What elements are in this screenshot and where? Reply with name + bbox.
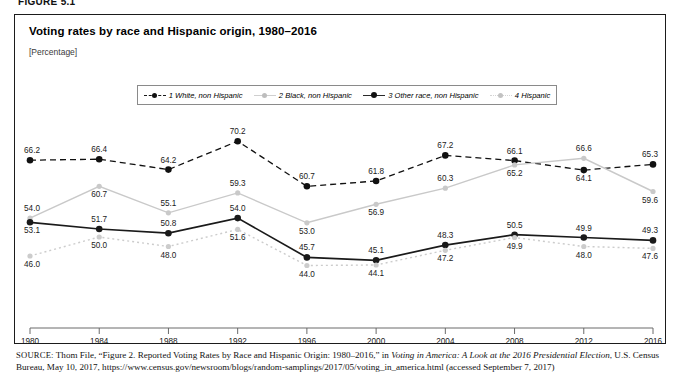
x-axis-tick-label: 2008 <box>505 337 524 343</box>
data-point[interactable] <box>27 219 34 226</box>
data-point-label: 59.3 <box>230 179 246 188</box>
chart-svg: 1980198419881992199620002004200820122016… <box>15 15 667 343</box>
data-point-label: 54.0 <box>24 204 40 213</box>
data-point-label: 60.7 <box>91 190 107 199</box>
data-point[interactable] <box>650 246 655 251</box>
data-point[interactable] <box>165 230 172 237</box>
data-point-label: 70.2 <box>230 127 246 136</box>
data-point-label: 50.0 <box>91 241 107 250</box>
data-point[interactable] <box>650 237 657 244</box>
data-point-label: 51.7 <box>91 215 107 224</box>
data-point[interactable] <box>97 184 102 189</box>
data-point-label: 53.0 <box>299 227 315 236</box>
data-point-label: 64.1 <box>576 174 592 183</box>
series-line <box>30 218 653 260</box>
data-point-label: 59.6 <box>642 196 658 205</box>
data-point[interactable] <box>443 186 448 191</box>
data-point[interactable] <box>512 162 517 167</box>
data-point-label: 65.2 <box>507 169 523 178</box>
x-axis-tick-label: 2016 <box>644 337 663 343</box>
data-point[interactable] <box>27 157 34 164</box>
x-axis-tick-label: 1984 <box>90 337 109 343</box>
data-point[interactable] <box>304 263 309 268</box>
data-point-label: 47.6 <box>642 252 658 261</box>
source-text-italic: Voting in America: A Look at the 2016 Pr… <box>391 350 610 360</box>
data-point-label: 46.0 <box>24 260 40 269</box>
line-chart-plot-area: 1980198419881992199620002004200820122016… <box>15 15 667 343</box>
data-point[interactable] <box>443 248 448 253</box>
series-line <box>30 229 653 265</box>
chart-series: 66.266.464.270.260.761.867.266.164.165.3 <box>24 127 658 189</box>
series-line <box>30 158 653 223</box>
data-point-label: 48.0 <box>160 251 176 260</box>
data-point-label: 49.9 <box>576 224 592 233</box>
data-point[interactable] <box>96 226 103 233</box>
figure-label: FIGURE 5.1 <box>18 0 75 7</box>
data-point-label: 50.8 <box>160 219 176 228</box>
source-text-1: Thom File, “Figure 2. Reported Voting Ra… <box>54 350 391 360</box>
data-point-label: 54.0 <box>230 204 246 213</box>
data-point[interactable] <box>27 253 32 258</box>
data-point-label: 60.7 <box>299 172 315 181</box>
data-point[interactable] <box>165 166 172 173</box>
data-point-label: 66.1 <box>507 147 523 156</box>
data-point-label: 45.7 <box>299 243 315 252</box>
data-point[interactable] <box>304 254 311 261</box>
data-point[interactable] <box>97 234 102 239</box>
data-point[interactable] <box>96 156 103 163</box>
data-point-label: 66.4 <box>91 145 107 154</box>
x-axis-tick-label: 1996 <box>298 337 317 343</box>
x-axis: 1980198419881992199620002004200820122016 <box>21 328 663 343</box>
data-point[interactable] <box>581 244 586 249</box>
data-point-label: 66.6 <box>576 144 592 153</box>
data-point-label: 49.3 <box>642 226 658 235</box>
data-point[interactable] <box>373 178 380 185</box>
data-point[interactable] <box>304 183 311 190</box>
data-point[interactable] <box>234 215 241 222</box>
data-point-label: 67.2 <box>437 141 453 150</box>
data-point-label: 48.0 <box>576 251 592 260</box>
data-point-label: 60.3 <box>437 174 453 183</box>
x-axis-tick-label: 1980 <box>21 337 40 343</box>
data-point-label: 56.9 <box>368 208 384 217</box>
data-point-label: 44.1 <box>368 269 384 278</box>
data-point-label: 55.1 <box>160 199 176 208</box>
data-point-label: 47.2 <box>437 254 453 263</box>
source-note: SOURCE: Thom File, “Figure 2. Reported V… <box>16 350 664 373</box>
x-axis-tick-label: 2012 <box>575 337 594 343</box>
chart-series: 46.050.048.051.644.044.147.249.948.047.6 <box>24 227 658 279</box>
data-point[interactable] <box>442 152 449 159</box>
data-point-label: 48.3 <box>437 231 453 240</box>
chart-series: 54.060.755.159.353.056.960.365.266.659.6 <box>24 144 658 236</box>
data-point[interactable] <box>512 235 517 240</box>
data-point[interactable] <box>234 138 241 145</box>
data-point[interactable] <box>374 202 379 207</box>
x-axis-tick-label: 1988 <box>159 337 178 343</box>
data-point[interactable] <box>304 220 309 225</box>
data-point-label: 51.6 <box>230 233 246 242</box>
data-point[interactable] <box>650 189 655 194</box>
data-point-label: 45.1 <box>368 246 384 255</box>
data-point[interactable] <box>235 227 240 232</box>
data-point[interactable] <box>166 244 171 249</box>
data-point-label: 50.5 <box>507 221 523 230</box>
x-axis-tick-label: 1992 <box>229 337 248 343</box>
data-point[interactable] <box>166 210 171 215</box>
data-point[interactable] <box>581 234 588 241</box>
data-point-label: 44.0 <box>299 270 315 279</box>
x-axis-tick-label: 2004 <box>436 337 455 343</box>
data-point[interactable] <box>235 190 240 195</box>
data-point-label: 66.2 <box>24 146 40 155</box>
data-point-label: 61.8 <box>368 167 384 176</box>
source-keyword: SOURCE: <box>16 350 54 360</box>
data-point-label: 64.2 <box>160 156 176 165</box>
data-point[interactable] <box>650 161 657 168</box>
x-axis-tick-label: 2000 <box>367 337 386 343</box>
data-point[interactable] <box>581 156 586 161</box>
figure-container: Voting rates by race and Hispanic origin… <box>14 14 666 344</box>
data-point[interactable] <box>374 262 379 267</box>
series-line <box>30 141 653 186</box>
data-point[interactable] <box>442 242 449 249</box>
data-point-label: 49.9 <box>507 242 523 251</box>
data-point[interactable] <box>581 167 588 174</box>
